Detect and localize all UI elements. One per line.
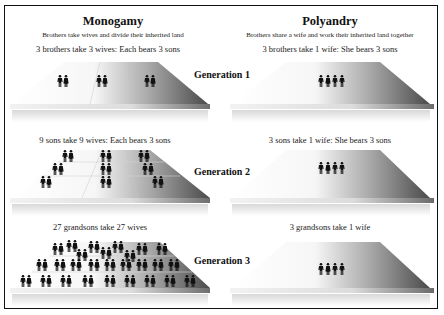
polyandry-gen2-caption: 3 sons take 1 wife: She bears 3 sons xyxy=(269,135,391,145)
woman-icon xyxy=(148,163,154,175)
man-icon xyxy=(339,162,345,174)
woman-icon xyxy=(162,243,168,255)
woman-icon xyxy=(142,243,148,255)
woman-icon xyxy=(325,75,331,87)
man-icon xyxy=(332,75,338,87)
polyandry-gen1-land xyxy=(230,58,434,124)
woman-icon xyxy=(174,259,180,271)
man-icon xyxy=(332,162,338,174)
polyandry-title: Polyandry xyxy=(302,14,358,29)
man-icon xyxy=(339,75,345,87)
monogamy-gen1-land xyxy=(10,58,210,124)
woman-icon xyxy=(325,263,331,275)
woman-icon xyxy=(190,275,196,287)
woman-icon xyxy=(42,259,48,271)
woman-icon xyxy=(26,275,32,287)
man-icon xyxy=(318,75,324,87)
man-icon xyxy=(332,263,338,275)
monogamy-gen1-caption: 3 brothers take 3 wives: Each bears 3 so… xyxy=(36,44,180,54)
monogamy-subtitle: Brothers take wives and divide their inh… xyxy=(42,31,184,39)
woman-icon xyxy=(106,150,112,162)
woman-icon xyxy=(158,259,164,271)
woman-icon xyxy=(144,150,150,162)
woman-icon xyxy=(142,259,148,271)
woman-icon xyxy=(68,150,74,162)
woman-icon xyxy=(325,162,331,174)
woman-icon xyxy=(150,275,156,287)
monogamy-gen2-caption: 9 sons take 9 wives: Each bears 3 sons xyxy=(39,135,170,145)
woman-icon xyxy=(88,275,94,287)
woman-icon xyxy=(110,275,116,287)
woman-icon xyxy=(94,259,100,271)
woman-icon xyxy=(76,259,82,271)
man-icon xyxy=(318,162,324,174)
woman-icon xyxy=(106,247,112,259)
monogamy-gen3-caption: 27 grandsons take 27 wives xyxy=(53,222,147,232)
man-icon xyxy=(339,263,345,275)
monogamy-title: Monogamy xyxy=(83,14,143,29)
woman-icon xyxy=(110,259,116,271)
woman-icon xyxy=(130,275,136,287)
man-icon xyxy=(318,263,324,275)
woman-icon xyxy=(46,176,52,188)
woman-icon xyxy=(158,176,164,188)
polyandry-subtitle: Brothers share a wife and work their inh… xyxy=(246,31,413,39)
woman-icon xyxy=(150,75,156,87)
woman-icon xyxy=(46,275,52,287)
woman-icon xyxy=(170,275,176,287)
woman-icon xyxy=(126,259,132,271)
woman-icon xyxy=(60,259,66,271)
polyandry-gen2-land xyxy=(230,148,434,218)
woman-icon xyxy=(106,163,112,175)
woman-icon xyxy=(63,75,69,87)
polyandry-gen1-caption: 3 brothers take 1 wife: She bears 3 sons xyxy=(262,44,397,54)
woman-icon xyxy=(106,176,112,188)
woman-icon xyxy=(102,75,108,87)
woman-icon xyxy=(66,275,72,287)
woman-icon xyxy=(58,243,64,255)
polyandry-gen3-caption: 3 grandsons take 1 wife xyxy=(290,222,371,232)
woman-icon xyxy=(58,163,64,175)
